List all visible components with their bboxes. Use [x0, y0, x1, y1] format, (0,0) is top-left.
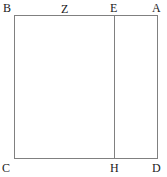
point-label-z: Z	[61, 3, 68, 15]
vertex-label-d: D	[152, 162, 161, 174]
vertical-divider-line	[114, 15, 115, 159]
geometry-figure: B Z E A C H D	[0, 0, 167, 177]
vertex-label-a: A	[152, 2, 161, 14]
vertex-label-c: C	[2, 162, 10, 174]
rectangle-shape	[14, 15, 158, 159]
vertex-label-e: E	[110, 2, 117, 14]
vertex-label-h: H	[110, 162, 119, 174]
vertex-label-b: B	[3, 2, 11, 14]
